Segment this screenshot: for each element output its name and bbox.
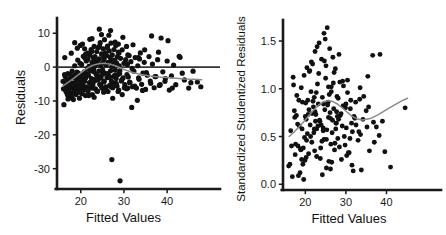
data-point (324, 166, 329, 171)
data-point (309, 140, 314, 145)
data-point (307, 68, 312, 73)
data-point (322, 137, 327, 142)
data-point (299, 85, 304, 90)
data-point (107, 75, 112, 80)
data-point (322, 107, 327, 112)
scatter-points (286, 25, 407, 182)
data-point (78, 43, 83, 48)
data-point (130, 66, 135, 71)
y-tick-label: 10 (38, 27, 50, 39)
data-point (119, 77, 124, 82)
data-point (366, 104, 371, 109)
data-point (323, 37, 328, 42)
panel-studentized-vs-fitted: 0.00.51.01.5203040Fitted ValuesStandardi… (223, 0, 446, 235)
data-point (188, 80, 193, 85)
data-point (92, 44, 97, 49)
data-point (72, 63, 77, 68)
data-point (87, 37, 92, 42)
data-point (113, 68, 118, 73)
data-point (321, 125, 326, 130)
data-point (130, 42, 135, 47)
data-point (350, 163, 355, 168)
data-point (326, 84, 331, 89)
data-point (356, 129, 361, 134)
data-point (82, 46, 87, 51)
data-point (65, 96, 70, 101)
data-point (377, 133, 382, 138)
data-point (365, 125, 370, 130)
data-point (345, 78, 350, 83)
data-point (292, 115, 297, 120)
y-tick-label: -30 (34, 163, 50, 175)
data-point (118, 56, 123, 61)
data-point (307, 107, 312, 112)
data-point (388, 165, 393, 170)
data-point (337, 145, 342, 150)
data-point (294, 93, 299, 98)
y-tick-label: 1.0 (261, 83, 276, 95)
data-point (99, 32, 104, 37)
data-point (313, 119, 318, 124)
data-point (69, 92, 74, 97)
data-point (97, 27, 102, 32)
data-point (142, 60, 147, 65)
data-point (322, 31, 327, 36)
data-point (132, 83, 137, 88)
data-point (95, 89, 100, 94)
x-tick-label: 20 (75, 195, 87, 207)
data-point (125, 85, 130, 90)
data-point (325, 103, 330, 108)
data-point (125, 52, 130, 57)
data-point (336, 96, 341, 101)
data-point (374, 125, 379, 130)
data-point (329, 160, 334, 165)
x-axis-title: Fitted Values (312, 211, 387, 226)
x-tick-label: 40 (161, 195, 173, 207)
data-point (301, 146, 306, 151)
data-point (61, 102, 66, 107)
data-point (129, 105, 134, 110)
data-point (378, 52, 383, 57)
data-point (110, 52, 115, 57)
data-point (92, 95, 97, 100)
studentized-residuals-plot: 0.00.51.01.5203040Fitted ValuesStandardi… (223, 0, 446, 235)
data-point (108, 28, 113, 33)
data-point (137, 56, 142, 61)
data-point (322, 59, 327, 64)
data-point (83, 52, 88, 57)
data-point (124, 44, 129, 49)
data-point (86, 93, 91, 98)
data-point (89, 49, 94, 54)
data-point (361, 94, 366, 99)
data-point (334, 121, 339, 126)
data-point (359, 167, 364, 172)
data-point (349, 121, 354, 126)
data-point (116, 41, 121, 46)
data-point (105, 45, 110, 50)
data-point (135, 63, 140, 68)
data-point (320, 95, 325, 100)
data-point (304, 138, 309, 143)
data-point (128, 59, 133, 64)
x-tick-label: 40 (380, 196, 392, 208)
data-point (106, 33, 111, 38)
data-point (77, 96, 82, 101)
x-tick-label: 20 (299, 196, 311, 208)
data-point (382, 149, 387, 154)
y-tick-label: -20 (34, 129, 50, 141)
data-point (371, 120, 376, 125)
x-tick-label: 30 (340, 196, 352, 208)
data-point (309, 60, 314, 65)
data-point (308, 134, 313, 139)
y-tick-label: -10 (34, 95, 50, 107)
data-point (372, 140, 377, 145)
data-point (165, 38, 170, 43)
data-point (288, 128, 293, 133)
data-point (114, 81, 119, 86)
data-point (325, 25, 330, 30)
y-tick-label: 0.5 (261, 131, 276, 143)
data-point (344, 153, 349, 158)
data-point (315, 124, 320, 129)
data-point (342, 134, 347, 139)
data-point (312, 95, 317, 100)
